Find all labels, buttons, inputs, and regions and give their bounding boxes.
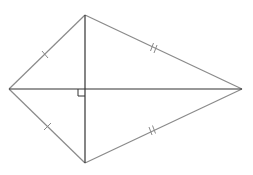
edge-right-bottom	[85, 89, 242, 163]
edge-top-right	[85, 15, 242, 89]
kite-diagram	[0, 0, 253, 175]
edge-left-top	[9, 15, 85, 89]
edge-bottom-left	[9, 89, 85, 163]
right-angle-marker	[78, 89, 85, 96]
kite-diagonals	[9, 15, 242, 163]
